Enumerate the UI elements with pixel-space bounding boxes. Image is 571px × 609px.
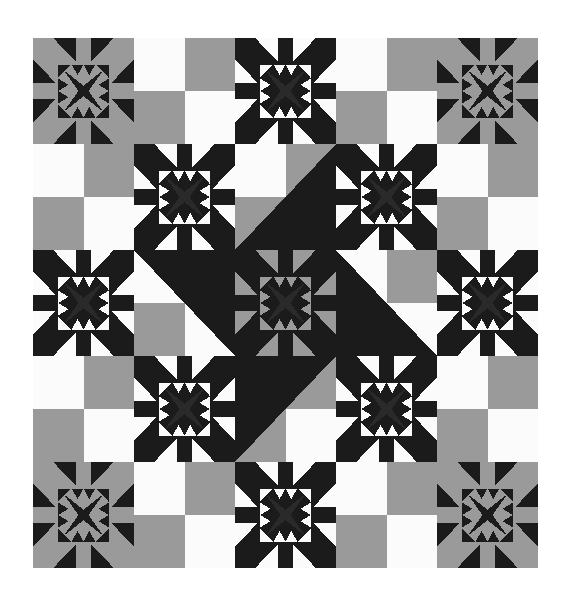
- quilt-block-star_light-r2c2: [134, 144, 235, 250]
- patch-quadrant-top-right: [84, 144, 135, 197]
- patch-quadrant-bottom-left: [336, 515, 387, 568]
- patch-quadrant-bottom-right: [488, 197, 539, 250]
- quilt-block-four_patch-r3c4: [336, 250, 437, 356]
- patch-quadrant-top-left: [33, 144, 84, 197]
- patch-quadrant-top-right: [387, 250, 438, 303]
- quilt-block-star_dark-r5c5: [437, 462, 538, 568]
- quilt-artwork-canvas: [0, 0, 571, 609]
- patch-quadrant-bottom-right: [286, 409, 337, 462]
- patch-quadrant-bottom-right: [84, 197, 135, 250]
- quilt-block-star_light-r3c1: [33, 250, 134, 356]
- patch-quadrant-bottom-left: [33, 197, 84, 250]
- quilt-block-layer: [33, 38, 538, 568]
- quilt-block-star_light-r4c2: [134, 356, 235, 462]
- quilt-block-star_dark-r1c1: [33, 38, 134, 144]
- quilt-block-star_light-r3c5: [437, 250, 538, 356]
- quilt-block-four_patch-r1c4: [336, 38, 437, 144]
- patch-quadrant-bottom-left: [437, 409, 488, 462]
- patch-quadrant-bottom-left: [33, 409, 84, 462]
- quilt-block-star_center-r3c3: [235, 250, 336, 356]
- quilt-block-four_patch-r2c1: [33, 144, 134, 250]
- patch-quadrant-top-right: [488, 144, 539, 197]
- patch-quadrant-top-right: [488, 356, 539, 409]
- quilt-block-four_patch-r4c5: [437, 356, 538, 462]
- patch-quadrant-bottom-right: [185, 91, 236, 144]
- patch-quadrant-top-left: [134, 462, 185, 515]
- patch-quadrant-bottom-right: [387, 91, 438, 144]
- patch-quadrant-bottom-right: [488, 409, 539, 462]
- patch-quadrant-top-left: [33, 356, 84, 409]
- quilt-block-four_patch-r4c3: [235, 356, 336, 462]
- quilt-block-star_dark-r1c5: [437, 38, 538, 144]
- patch-quadrant-bottom-left: [134, 515, 185, 568]
- patch-quadrant-top-left: [437, 144, 488, 197]
- patch-quadrant-bottom-left: [336, 91, 387, 144]
- patch-quadrant-bottom-left: [437, 197, 488, 250]
- quilt-block-four_patch-r5c2: [134, 462, 235, 568]
- quilt-block-star_light-r4c4: [336, 356, 437, 462]
- quilt-block-four_patch-r2c3: [235, 144, 336, 250]
- quilt-block-four_patch-r2c5: [437, 144, 538, 250]
- patch-quadrant-top-left: [437, 356, 488, 409]
- quilt-block-four_patch-r3c2: [134, 250, 235, 356]
- patch-quadrant-top-left: [134, 38, 185, 91]
- patch-quadrant-top-left: [336, 462, 387, 515]
- patch-quadrant-top-right: [387, 462, 438, 515]
- patch-quadrant-bottom-left: [134, 303, 185, 356]
- patch-quadrant-top-right: [84, 356, 135, 409]
- quilt-svg: [0, 0, 571, 609]
- quilt-block-star_dark-r5c1: [33, 462, 134, 568]
- patch-quadrant-bottom-right: [185, 515, 236, 568]
- patch-quadrant-top-left: [336, 38, 387, 91]
- patch-quadrant-bottom-right: [387, 515, 438, 568]
- quilt-block-four_patch-r1c2: [134, 38, 235, 144]
- patch-quadrant-bottom-right: [84, 409, 135, 462]
- quilt-block-star_light-r2c4: [336, 144, 437, 250]
- patch-quadrant-top-right: [185, 38, 236, 91]
- patch-quadrant-top-right: [387, 38, 438, 91]
- quilt-block-star_light-r5c3: [235, 462, 336, 568]
- patch-quadrant-top-left: [235, 144, 286, 197]
- quilt-block-four_patch-r5c4: [336, 462, 437, 568]
- patch-quadrant-bottom-left: [134, 91, 185, 144]
- patch-quadrant-top-right: [185, 462, 236, 515]
- quilt-block-star_light-r1c3: [235, 38, 336, 144]
- quilt-block-four_patch-r4c1: [33, 356, 134, 462]
